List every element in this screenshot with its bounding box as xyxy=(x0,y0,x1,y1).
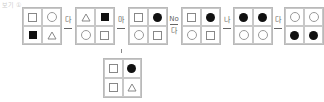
cell xyxy=(201,26,220,44)
cell xyxy=(95,26,114,44)
square-outline-icon xyxy=(206,31,215,40)
square-filled-icon xyxy=(29,31,37,39)
triangle-outline-icon xyxy=(81,13,91,22)
cell xyxy=(148,8,167,26)
operator-5: 다 xyxy=(273,16,283,24)
grid-1 xyxy=(22,7,62,45)
cell xyxy=(23,26,42,44)
arrow xyxy=(223,28,231,29)
header-fragment: 보기 ① xyxy=(2,0,21,9)
cell xyxy=(304,26,323,44)
cell xyxy=(234,8,253,26)
arrow xyxy=(274,28,282,29)
grid-5 xyxy=(233,7,273,45)
operator-2: 마 xyxy=(116,16,126,24)
circle-filled-icon xyxy=(290,31,299,40)
circle-filled-icon xyxy=(239,13,248,22)
operator-4: 나 xyxy=(222,16,232,24)
grid-6 xyxy=(284,7,324,45)
cell xyxy=(76,26,95,44)
square-filled-icon xyxy=(101,13,109,21)
tick-mark xyxy=(121,49,122,53)
operator-label: No xyxy=(168,15,180,23)
circle-outline-icon xyxy=(47,12,57,22)
cell xyxy=(182,8,201,26)
operator-sublabel: 다 xyxy=(168,27,180,35)
square-outline-icon xyxy=(28,13,37,22)
circle-outline-icon xyxy=(239,30,249,40)
square-outline-icon xyxy=(100,31,109,40)
arrow xyxy=(170,24,178,25)
triangle-outline-icon xyxy=(47,31,57,40)
arrow xyxy=(64,28,72,29)
cell xyxy=(42,8,61,26)
cell xyxy=(234,26,253,44)
cell xyxy=(285,8,304,26)
square-outline-icon xyxy=(109,64,118,73)
square-outline-icon xyxy=(153,31,162,40)
circle-filled-icon xyxy=(258,13,267,22)
grid-4 xyxy=(181,7,221,45)
square-outline-icon xyxy=(109,83,118,92)
grid-7 xyxy=(103,58,142,98)
cell xyxy=(129,8,148,26)
cell xyxy=(123,59,142,78)
cell xyxy=(304,8,323,26)
operator-label: 다 xyxy=(63,16,73,24)
circle-outline-icon xyxy=(309,12,319,22)
circle-outline-icon xyxy=(134,30,144,40)
square-outline-icon xyxy=(187,13,196,22)
circle-outline-icon xyxy=(81,30,91,40)
cell xyxy=(201,8,220,26)
cell xyxy=(23,8,42,26)
grid-3 xyxy=(128,7,168,45)
grid-2 xyxy=(75,7,115,45)
arrow xyxy=(117,28,125,29)
cell xyxy=(123,78,142,97)
triangle-outline-icon xyxy=(127,83,137,92)
cell xyxy=(285,26,304,44)
cell xyxy=(42,26,61,44)
cell xyxy=(76,8,95,26)
cell xyxy=(129,26,148,44)
cell xyxy=(104,78,123,97)
cell xyxy=(104,59,123,78)
circle-filled-icon xyxy=(127,64,136,73)
cell xyxy=(182,26,201,44)
operator-label: 다 xyxy=(273,16,283,24)
cell xyxy=(253,26,272,44)
cell xyxy=(253,8,272,26)
circle-filled-icon xyxy=(153,13,162,22)
circle-outline-icon xyxy=(258,30,268,40)
circle-outline-icon xyxy=(290,12,300,22)
circle-filled-icon xyxy=(309,31,318,40)
operator-1: 다 xyxy=(63,16,73,24)
square-outline-icon xyxy=(134,13,143,22)
circle-outline-icon xyxy=(187,30,197,40)
cell xyxy=(148,26,167,44)
operator-label: 마 xyxy=(116,16,126,24)
circle-filled-icon xyxy=(206,13,215,22)
operator-label: 나 xyxy=(222,16,232,24)
cell xyxy=(95,8,114,26)
operator-3: No 다 xyxy=(168,15,180,35)
